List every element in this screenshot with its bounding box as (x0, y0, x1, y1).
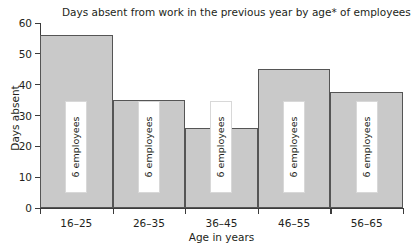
bar-value-label: 6 employees (143, 101, 155, 193)
bar-value-label-box: 6 employees (210, 101, 232, 193)
y-tick-label: 20 (19, 140, 32, 152)
bar-value-label: 6 employees (288, 101, 300, 193)
x-tick-label: 46–55 (254, 217, 334, 229)
bar-value-label: 6 employees (215, 101, 227, 193)
x-tick-mark (258, 208, 259, 214)
x-tick-label: 56–65 (327, 217, 407, 229)
bar: 6 employees (40, 35, 113, 208)
x-tick-label: 26–35 (109, 217, 189, 229)
y-tick-label: 60 (19, 17, 32, 29)
y-tick: 20 (8, 140, 40, 152)
bar: 6 employees (185, 128, 258, 208)
y-tick-label: 10 (19, 171, 32, 183)
y-tick-label: 50 (19, 48, 32, 60)
chart-title: Days absent from work in the previous ye… (62, 6, 412, 19)
bar-value-label-box: 6 employees (138, 101, 160, 193)
bar: 6 employees (330, 92, 403, 208)
bar-value-label-box: 6 employees (283, 101, 305, 193)
x-tick-label: 16–25 (36, 217, 116, 229)
bar: 6 employees (258, 69, 331, 208)
bar-value-label-box: 6 employees (65, 101, 87, 193)
y-tick: 30 (8, 110, 40, 122)
bars-group: 6 employees6 employees6 employees6 emplo… (40, 23, 403, 208)
x-tick-mark (40, 208, 41, 214)
y-tick: 50 (8, 48, 40, 60)
bar-chart-figure: Days absent from work in the previous ye… (0, 0, 416, 252)
x-axis-title: Age in years (40, 231, 403, 243)
y-tick-label: 40 (19, 79, 32, 91)
y-tick: 60 (8, 17, 40, 29)
bar-value-label-box: 6 employees (356, 101, 378, 193)
bar-value-label: 6 employees (70, 101, 82, 193)
y-tick-label: 30 (19, 110, 32, 122)
x-tick-mark (403, 208, 404, 214)
y-tick: 0 (8, 202, 40, 214)
x-tick-mark (185, 208, 186, 214)
bar: 6 employees (113, 100, 186, 208)
y-tick: 10 (8, 171, 40, 183)
y-tick-label: 0 (25, 202, 32, 214)
x-tick-label: 36–45 (182, 217, 262, 229)
x-tick-mark (113, 208, 114, 214)
x-tick-mark (330, 208, 331, 214)
bar-value-label: 6 employees (361, 101, 373, 193)
plot-area: 0102030405060 6 employees6 employees6 em… (40, 23, 403, 208)
x-axis-line (40, 208, 403, 209)
y-tick: 40 (8, 79, 40, 91)
